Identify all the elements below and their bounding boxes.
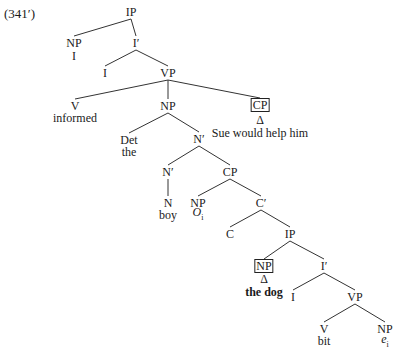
node-label: VP [160, 67, 175, 79]
node-text: I [103, 66, 107, 80]
node-text: the dog [245, 285, 283, 299]
terminal-word: the dog [245, 286, 283, 298]
node-label: C′ [256, 197, 267, 209]
node-label: NP [160, 100, 175, 112]
node-text: I [291, 290, 295, 304]
node-label: I [291, 291, 295, 303]
tree-edge [264, 241, 290, 259]
node-text: O [193, 205, 202, 219]
index-subscript: i [201, 213, 203, 222]
node-label: VP [347, 291, 362, 303]
tree-edge [129, 113, 168, 133]
tree-edge [230, 179, 261, 196]
node-text: IP [126, 5, 137, 19]
node-label: I [103, 67, 107, 79]
node-text: NP [256, 259, 271, 273]
terminal-word: informed [53, 112, 97, 124]
node-label: N′ [162, 166, 173, 178]
node-text: NP [66, 36, 81, 50]
node-text: CP [253, 98, 268, 112]
boxed-node-label: NP [254, 259, 273, 273]
tree-edge [168, 146, 199, 165]
node-label: C [226, 228, 234, 240]
tree-edge [324, 304, 355, 322]
node-text: Δ [260, 272, 268, 286]
node-text: Δ [256, 113, 264, 127]
tree-edge [324, 273, 355, 290]
tree-edge [290, 241, 324, 259]
tree-edge [261, 210, 290, 227]
terminal-word: ei [381, 333, 389, 350]
node-text: CP [223, 165, 238, 179]
tree-edge [230, 210, 261, 227]
terminal-word: Oi [193, 206, 204, 223]
tree-edge [168, 113, 199, 132]
node-label: I′ [133, 37, 140, 49]
terminal-word: bit [318, 335, 331, 347]
node-text: boy [159, 208, 177, 222]
node-label: IP [285, 228, 296, 240]
index-subscript: i [387, 340, 389, 349]
node-text: I [72, 49, 76, 63]
node-text: VP [160, 66, 175, 80]
terminal-word: Sue would help him [212, 127, 308, 139]
node-text: I′ [133, 36, 140, 50]
node-text: I′ [321, 259, 328, 273]
node-text: C [226, 227, 234, 241]
node-text: N′ [193, 132, 204, 146]
terminal-word: Δ [256, 114, 264, 126]
tree-edge [131, 19, 136, 36]
node-label: NP [66, 37, 81, 49]
terminal-word: Δ [260, 273, 268, 285]
tree-edge [293, 273, 324, 290]
node-text: C′ [256, 196, 267, 210]
node-text: bit [318, 334, 331, 348]
node-text: the [122, 145, 137, 159]
node-text: IP [285, 227, 296, 241]
tree-edge [198, 179, 230, 196]
tree-edge [199, 146, 230, 165]
node-text: VP [347, 290, 362, 304]
terminal-word: I [72, 50, 76, 62]
node-label: CP [223, 166, 238, 178]
node-text: informed [53, 111, 97, 125]
node-text: NP [160, 99, 175, 113]
node-label: N′ [193, 133, 204, 145]
tree-edge [74, 19, 131, 36]
tree-edge [168, 80, 260, 98]
tree-edges [0, 0, 396, 357]
tree-edge [355, 304, 385, 322]
node-label: I′ [321, 260, 328, 272]
terminal-word: boy [159, 209, 177, 221]
tree-edge [105, 50, 136, 66]
tree-edge [75, 80, 168, 99]
tree-edge [136, 50, 168, 66]
node-text: N′ [162, 165, 173, 179]
terminal-word: the [122, 146, 137, 158]
node-label: IP [126, 6, 137, 18]
node-text: Sue would help him [212, 126, 308, 140]
boxed-node-label: CP [251, 98, 270, 112]
